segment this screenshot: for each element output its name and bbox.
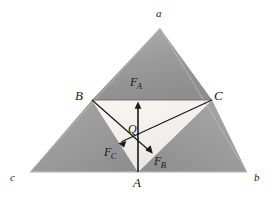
corner-triangle-top	[92, 28, 212, 100]
center-point-label-Q: Q	[128, 123, 137, 135]
force-label-fc-sub: C	[111, 151, 117, 161]
force-label-fb: FB	[154, 155, 167, 167]
inner-vertex-label-A: A	[133, 176, 141, 189]
outer-vertex-label-b: b	[254, 172, 260, 183]
diagram-canvas	[0, 0, 276, 197]
inner-vertex-label-C: C	[214, 89, 223, 102]
force-label-fa: FA	[130, 76, 143, 88]
force-diagram-figure: a c b B C A Q FA FC FB	[0, 0, 276, 197]
outer-vertex-label-c: c	[10, 172, 15, 183]
force-label-fc: FC	[104, 146, 117, 158]
inner-vertex-label-B: B	[75, 89, 83, 102]
force-label-fb-sub: B	[161, 160, 166, 170]
force-label-fa-sub: A	[137, 81, 142, 91]
point-q-marker	[137, 133, 139, 135]
outer-vertex-label-a: a	[156, 8, 162, 19]
